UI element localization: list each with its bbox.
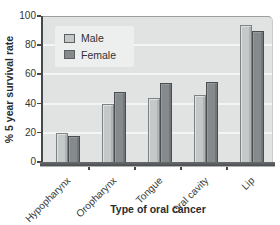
bar-male-oral-cavity: [194, 95, 206, 162]
bar-female-oral-cavity: [206, 82, 218, 162]
bar-female-tongue: [160, 83, 172, 162]
y-tick-label-100: 100: [0, 11, 36, 21]
legend-item-male: Male: [64, 33, 116, 44]
plot-area: MaleFemale: [43, 16, 273, 162]
gridline-60: [43, 73, 272, 75]
y-tick-mark: [37, 73, 41, 75]
y-tick-label-60: 60: [0, 69, 36, 79]
x-tick-mark: [226, 167, 228, 170]
oral-cancer-survival-chart: % 5 year survival rate MaleFemale 020406…: [0, 0, 280, 225]
y-tick-mark: [37, 103, 41, 105]
x-tick-mark: [88, 167, 90, 170]
legend-label: Female: [81, 50, 116, 61]
legend-item-female: Female: [64, 50, 116, 61]
y-tick-label-80: 80: [0, 40, 36, 50]
bar-female-oropharynx: [114, 92, 126, 162]
y-tick-mark: [37, 132, 41, 134]
y-axis-title: % 5 year survival rate: [3, 15, 16, 165]
y-tick-mark: [37, 15, 41, 17]
y-tick-label-20: 20: [0, 128, 36, 138]
legend: MaleFemale: [55, 26, 134, 67]
x-tick-mark: [134, 167, 136, 170]
legend-swatch-female: [64, 50, 75, 59]
bar-female-hypopharynx: [68, 136, 80, 162]
x-tick-mark: [180, 167, 182, 170]
bar-female-lip: [252, 31, 264, 162]
legend-swatch-male: [64, 34, 75, 43]
bar-male-oropharynx: [102, 104, 114, 162]
bar-male-lip: [240, 25, 252, 162]
y-tick-mark: [37, 44, 41, 46]
x-category-label-hypopharynx: Hypopharynx: [0, 175, 72, 225]
x-axis-line: [40, 162, 275, 167]
y-axis-line: [41, 16, 43, 166]
y-tick-label-0: 0: [0, 157, 36, 167]
bar-male-hypopharynx: [56, 133, 68, 162]
y-tick-label-40: 40: [0, 99, 36, 109]
legend-label: Male: [81, 33, 104, 44]
bar-male-tongue: [148, 98, 160, 162]
